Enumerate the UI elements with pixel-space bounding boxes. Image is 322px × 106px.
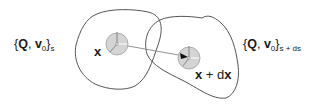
symbol-v: v: [35, 37, 42, 51]
symbol-Q: Q: [247, 37, 257, 51]
comma: ,: [28, 37, 35, 51]
point-label-x-plus-dx: x + dx: [195, 67, 232, 82]
diagram-canvas: [0, 0, 322, 106]
dx-x-text: x: [224, 67, 231, 82]
set-label-s: {Q, v0}s: [14, 37, 54, 53]
set-subscript: s: [50, 44, 54, 53]
material-point-right: [178, 46, 200, 69]
set-label-s-plus-ds: {Q, v0}s + ds: [243, 37, 301, 53]
plus-text: +: [202, 67, 217, 82]
point-x-text: x: [94, 44, 101, 59]
comma: ,: [257, 37, 264, 51]
material-point-left: [106, 32, 128, 55]
set-subscript: s + ds: [279, 44, 301, 53]
symbol-v: v: [264, 37, 271, 51]
symbol-Q: Q: [18, 37, 28, 51]
point-label-x: x: [94, 44, 101, 59]
